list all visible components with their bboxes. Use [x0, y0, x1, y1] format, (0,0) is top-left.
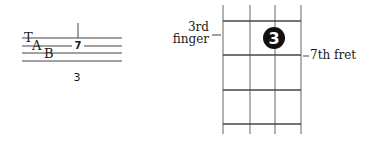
tab-finger-label: 3	[74, 71, 81, 84]
diagram-canvas: T A B 7 3 3 3rd finger 7th fret	[0, 0, 370, 143]
fretboard: 3 3rd finger 7th fret	[173, 5, 357, 134]
tab-staff: T A B 7 3	[22, 23, 122, 84]
tab-fret-number: 7	[75, 40, 82, 51]
finger-dot-number: 3	[268, 29, 279, 48]
finger-label-line2: finger	[173, 32, 210, 46]
tab-clef-b: B	[44, 46, 54, 61]
tab-clef-a: A	[31, 38, 42, 53]
fret-label: 7th fret	[310, 48, 356, 62]
